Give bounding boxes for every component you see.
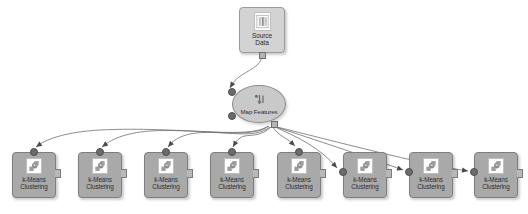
k-means-clustering-body-3[interactable]: k-MeansClustering (144, 152, 188, 198)
k-means-clustering-output-tab-1[interactable] (55, 169, 61, 178)
k-means-icon (224, 158, 240, 174)
k-means-clustering-body-7[interactable]: k-MeansClustering (409, 152, 453, 198)
k-means-clustering-input-port-7[interactable] (405, 168, 413, 176)
map-features-input-port[interactable] (228, 88, 236, 96)
k-means-clustering-input-port-1[interactable] (30, 148, 38, 156)
k-means-icon (423, 158, 439, 174)
k-means-clustering-body-1[interactable]: k-MeansClustering (12, 152, 56, 198)
k-means-clustering-label-5: k-MeansClustering (285, 177, 312, 190)
k-means-clustering-output-tab-3[interactable] (187, 169, 193, 178)
k-means-clustering-body-8[interactable]: k-MeansClustering (474, 152, 518, 198)
node-layer: Source Data Map Features (0, 0, 528, 214)
map-features-output-port[interactable] (271, 121, 278, 128)
source-data-output-port[interactable] (259, 52, 266, 59)
map-features-label: Map Features (241, 109, 278, 116)
k-means-clustering-body-4[interactable]: k-MeansClustering (210, 152, 254, 198)
k-means-clustering-label-4: k-MeansClustering (218, 177, 245, 190)
k-means-clustering-input-port-6[interactable] (339, 168, 347, 176)
source-data-label-line2: Data (252, 40, 272, 47)
k-means-clustering-label-line2: Clustering (86, 184, 113, 191)
k-means-icon (291, 158, 307, 174)
k-means-clustering-output-tab-7[interactable] (452, 169, 458, 178)
table-document-icon (254, 12, 271, 31)
k-means-icon (26, 158, 42, 174)
k-means-clustering-body-2[interactable]: k-MeansClustering (78, 152, 122, 198)
k-means-clustering-label-3: k-MeansClustering (152, 177, 179, 190)
k-means-clustering-label-line2: Clustering (285, 184, 312, 191)
k-means-icon (158, 158, 174, 174)
source-data-body[interactable]: Source Data (239, 7, 285, 53)
k-means-clustering-label-7: k-MeansClustering (417, 177, 444, 190)
k-means-clustering-body-5[interactable]: k-MeansClustering (277, 152, 321, 198)
k-means-clustering-input-port-2[interactable] (96, 148, 104, 156)
map-features-secondary-port[interactable] (228, 112, 236, 120)
map-features-icon (252, 93, 267, 108)
k-means-clustering-label-6: k-MeansClustering (351, 177, 378, 190)
k-means-clustering-label-8: k-MeansClustering (482, 177, 509, 190)
workflow-canvas[interactable]: Source Data Map Features (0, 0, 528, 214)
source-data-label: Source Data (252, 33, 272, 47)
k-means-clustering-label-1: k-MeansClustering (20, 177, 47, 190)
k-means-clustering-output-tab-5[interactable] (320, 169, 326, 178)
k-means-clustering-body-6[interactable]: k-MeansClustering (343, 152, 387, 198)
k-means-clustering-label-line2: Clustering (20, 184, 47, 191)
k-means-clustering-input-port-4[interactable] (228, 148, 236, 156)
k-means-icon (488, 158, 504, 174)
k-means-clustering-label-line2: Clustering (351, 184, 378, 191)
k-means-clustering-label-line2: Clustering (218, 184, 245, 191)
k-means-clustering-input-port-5[interactable] (295, 148, 303, 156)
k-means-clustering-label-line2: Clustering (482, 184, 509, 191)
k-means-clustering-output-tab-4[interactable] (253, 169, 259, 178)
k-means-clustering-input-port-8[interactable] (470, 168, 478, 176)
k-means-clustering-output-tab-8[interactable] (517, 169, 523, 178)
k-means-clustering-label-2: k-MeansClustering (86, 177, 113, 190)
k-means-clustering-label-line2: Clustering (417, 184, 444, 191)
k-means-icon (357, 158, 373, 174)
k-means-clustering-label-line2: Clustering (152, 184, 179, 191)
k-means-icon (92, 158, 108, 174)
k-means-clustering-output-tab-6[interactable] (386, 169, 392, 178)
k-means-clustering-output-tab-2[interactable] (121, 169, 127, 178)
map-features-body[interactable]: Map Features (232, 85, 286, 123)
k-means-clustering-input-port-3[interactable] (162, 148, 170, 156)
